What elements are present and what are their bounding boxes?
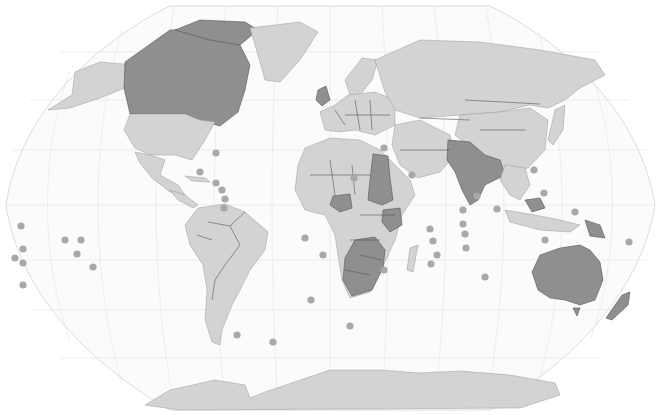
island-marker-dot — [625, 238, 632, 245]
island-marker-dot — [426, 225, 433, 232]
island-marker-dot — [221, 195, 228, 202]
island-marker-dot — [346, 322, 353, 329]
island-marker-dot — [212, 149, 219, 156]
island-marker-dot — [540, 189, 547, 196]
island-marker-dot — [17, 222, 24, 229]
island-marker-dot — [19, 245, 26, 252]
island-marker-dot — [493, 205, 500, 212]
island-marker-dot — [571, 208, 578, 215]
island-marker-dot — [77, 236, 84, 243]
island-marker-dot — [429, 237, 436, 244]
island-marker-dot — [481, 273, 488, 280]
island-marker-dot — [301, 234, 308, 241]
island-marker-dot — [473, 192, 480, 199]
island-marker-dot — [530, 166, 537, 173]
island-marker-dot — [380, 144, 387, 151]
island-marker-dot — [350, 174, 357, 181]
island-marker-dot — [220, 204, 227, 211]
island-marker-dot — [233, 331, 240, 338]
island-marker-dot — [462, 244, 469, 251]
island-marker-dot — [459, 206, 466, 213]
island-marker-dot — [541, 236, 548, 243]
island-marker-dot — [218, 186, 225, 193]
island-marker-dot — [196, 168, 203, 175]
island-marker-dot — [73, 250, 80, 257]
world-map — [0, 0, 661, 415]
island-marker-dot — [461, 230, 468, 237]
island-marker-dot — [319, 251, 326, 258]
island-marker-dot — [89, 263, 96, 270]
island-marker-dot — [269, 338, 276, 345]
island-marker-dot — [61, 236, 68, 243]
island-marker-dot — [212, 179, 219, 186]
island-marker-dot — [427, 260, 434, 267]
island-marker-dot — [11, 254, 18, 261]
island-marker-dot — [408, 171, 415, 178]
island-marker-dot — [19, 259, 26, 266]
island-marker-dot — [380, 266, 387, 273]
island-marker-dot — [433, 251, 440, 258]
island-marker-dot — [19, 281, 26, 288]
map-canvas — [0, 0, 661, 415]
island-marker-dot — [459, 220, 466, 227]
island-marker-dot — [307, 296, 314, 303]
